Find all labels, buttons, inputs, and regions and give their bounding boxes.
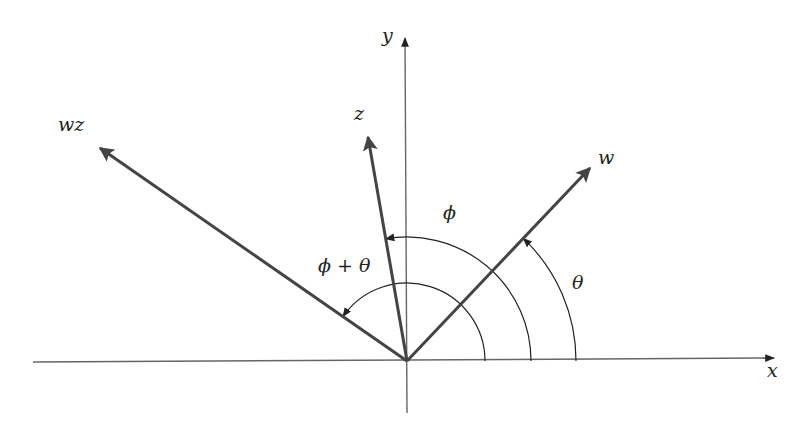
z-vector bbox=[368, 137, 407, 361]
rotation-diagram: y x w z wz θ ϕ ϕ + θ bbox=[0, 0, 806, 427]
w-vector bbox=[407, 168, 590, 361]
x-axis-label: x bbox=[767, 359, 778, 381]
z-label: z bbox=[353, 102, 365, 124]
phi-plus-theta-label: ϕ + θ bbox=[318, 254, 371, 276]
phi-label: ϕ bbox=[443, 201, 456, 223]
wz-label: wz bbox=[58, 113, 85, 135]
theta-arc bbox=[523, 238, 576, 361]
phi-plus-theta-arc bbox=[343, 283, 485, 361]
y-axis-label: y bbox=[381, 24, 393, 46]
w-label: w bbox=[598, 146, 614, 168]
theta-label: θ bbox=[572, 271, 584, 293]
phi-arc bbox=[386, 237, 531, 361]
